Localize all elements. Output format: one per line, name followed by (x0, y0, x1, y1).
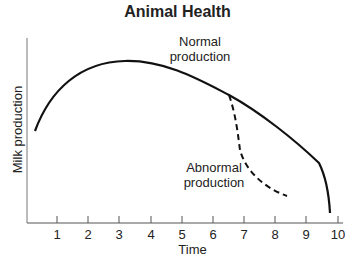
normal-label-line1: Normal (160, 34, 240, 49)
x-tick-label: 7 (234, 227, 254, 242)
abnormal-production-label: Abnormal production (174, 160, 254, 190)
abnormal-label-line1: Abnormal (174, 160, 254, 175)
x-tick-label: 1 (47, 227, 67, 242)
normal-label-line2: production (160, 49, 240, 64)
normal-production-line (35, 61, 330, 213)
x-tick-label: 10 (328, 227, 348, 242)
x-tick-label: 5 (172, 227, 192, 242)
abnormal-label-line2: production (174, 175, 254, 190)
normal-production-label: Normal production (160, 34, 240, 64)
y-axis-label: Milk production (10, 75, 25, 185)
x-tick-label: 2 (78, 227, 98, 242)
x-axis-ticks (57, 216, 338, 223)
x-axis-label: Time (0, 242, 355, 257)
x-tick-label: 6 (203, 227, 223, 242)
x-tick-label: 3 (109, 227, 129, 242)
x-tick-label: 4 (141, 227, 161, 242)
x-tick-label: 9 (296, 227, 316, 242)
x-tick-label: 8 (265, 227, 285, 242)
